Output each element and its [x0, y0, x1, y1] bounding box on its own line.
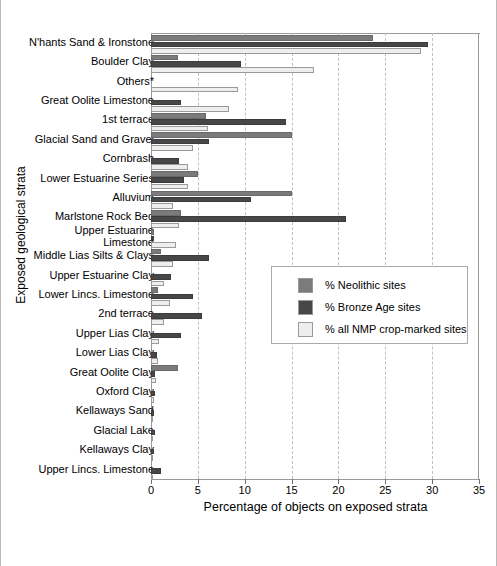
bar-bronze [151, 449, 154, 455]
bar-row: Lower Lias Clay [1, 343, 497, 362]
bar-row: Middle Lias Silts & Clays [1, 246, 497, 265]
bar-row: Glacial Lake [1, 421, 497, 440]
bar-neo [151, 365, 178, 371]
y-axis-category-label: Upper Lincs. Limestone [38, 460, 154, 479]
bar-neo [151, 132, 292, 138]
y-axis-category-label: Glacial Sand and Gravel [35, 130, 154, 149]
bar-group [151, 52, 480, 71]
y-axis-category-label: Lower Estuarine Series [40, 169, 154, 188]
x-tick-label: 10 [239, 484, 251, 496]
bar-neo [151, 287, 158, 293]
legend-label-neolithic: % Neolithic sites [325, 279, 406, 291]
bar-neo [151, 249, 161, 255]
legend-label-bronze-age: % Bronze Age sites [325, 301, 420, 313]
bar-neo [151, 35, 373, 41]
x-tick-label: 0 [148, 484, 154, 496]
bar-group [151, 169, 480, 188]
x-axis-title: Percentage of objects on exposed strata [151, 500, 480, 514]
legend-swatch-neolithic [298, 278, 313, 293]
x-axis-line [151, 479, 480, 480]
bar-group [151, 343, 480, 362]
y-axis-category-label: Lower Lincs. Limestone [38, 285, 154, 304]
bar-bronze [151, 371, 155, 377]
bar-row: 1st terrace [1, 111, 497, 130]
bar-group [151, 149, 480, 168]
y-axis-category-label: Lower Lias Clay [76, 343, 154, 362]
bar-row: Great Oolite Clay [1, 363, 497, 382]
x-tick-label: 20 [332, 484, 344, 496]
bar-bronze [151, 274, 171, 280]
bar-bronze [151, 352, 157, 358]
bar-neo [151, 191, 292, 197]
bar-bronze [151, 158, 179, 164]
bar-row: Upper Estuarine Limestone [1, 227, 497, 246]
y-axis-category-label: Upper Lias Clay [76, 324, 154, 343]
bar-neo [151, 229, 154, 235]
x-tick-label: 35 [473, 484, 485, 496]
bar-group [151, 188, 480, 207]
bar-bronze [151, 119, 286, 125]
bar-row: Others* [1, 72, 497, 91]
bar-bronze [151, 294, 193, 300]
bar-bronze [151, 236, 154, 242]
bar-row: Upper Lincs. Limestone [1, 460, 497, 479]
y-axis-category-label: Middle Lias Silts & Clays [34, 246, 154, 265]
y-axis-category-label: Upper Estuarine Limestone [75, 227, 155, 246]
bar-row: Cornbrash [1, 149, 497, 168]
legend-swatch-bronze-age [298, 300, 313, 315]
x-tick-label: 30 [426, 484, 438, 496]
bar-row: N'hants Sand & Ironstone [1, 33, 497, 52]
bar-bronze [151, 410, 154, 416]
bar-group [151, 72, 480, 91]
bar-bronze [151, 177, 184, 183]
x-tick-label: 25 [379, 484, 391, 496]
bar-bronze [151, 139, 209, 145]
bar-bronze [151, 42, 428, 48]
bar-bronze [151, 391, 155, 397]
bar-row: Alluvium [1, 188, 497, 207]
bar-neo [151, 113, 206, 119]
bar-bronze [151, 61, 241, 67]
bar-bronze [151, 468, 161, 474]
bar-bronze [151, 216, 346, 222]
bar-group [151, 91, 480, 110]
legend-label-nmp: % all NMP crop-marked sites [325, 323, 467, 335]
bar-row: Great Oolite Limestone [1, 91, 497, 110]
legend-swatch-nmp [298, 322, 313, 337]
bar-neo [151, 171, 198, 177]
y-axis-category-label: Others* [117, 72, 154, 91]
bar-bronze [151, 313, 202, 319]
bar-bronze [151, 197, 251, 203]
y-axis-category-label: Upper Estuarine Clay [49, 266, 154, 285]
chart-figure: Exposed geological strata 05101520253035… [0, 0, 497, 566]
bar-neo [151, 55, 178, 61]
bar-group [151, 33, 480, 52]
y-axis-category-label: 2nd terrace [98, 304, 154, 323]
bar-row: Glacial Sand and Gravel [1, 130, 497, 149]
bar-group [151, 382, 480, 401]
y-axis-category-label: N'hants Sand & Ironstone [29, 33, 154, 52]
bar-nmp [151, 475, 153, 481]
bar-row: Lower Estuarine Series [1, 169, 497, 188]
bar-neo [151, 210, 181, 216]
bar-group [151, 421, 480, 440]
bar-row: Kellaways Clay [1, 440, 497, 459]
bar-group [151, 363, 480, 382]
x-tick-label: 15 [285, 484, 297, 496]
bar-row: Boulder Clay [1, 52, 497, 71]
legend-item: % Bronze Age sites [298, 296, 467, 318]
bar-group [151, 111, 480, 130]
bar-group [151, 208, 480, 227]
bar-group [151, 227, 480, 246]
bar-row: Kellaways Sand [1, 401, 497, 420]
bar-group [151, 246, 480, 265]
chart-legend: % Neolithic sites % Bronze Age sites % a… [271, 266, 468, 344]
y-axis-category-label: Kellaways Clay [79, 440, 154, 459]
y-axis-category-label: Boulder Clay [91, 52, 154, 71]
x-tick-label: 5 [195, 484, 201, 496]
bar-group [151, 130, 480, 149]
bar-row: Oxford Clay [1, 382, 497, 401]
bar-bronze [151, 255, 209, 261]
bar-group [151, 460, 480, 479]
y-axis-category-label: Oxford Clay [96, 382, 154, 401]
